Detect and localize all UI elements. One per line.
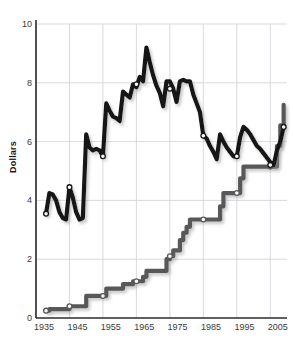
nominal-data-point [67,304,72,309]
real-data-point [201,133,206,138]
nominal-data-point [101,294,106,299]
data-series-layer [46,48,284,311]
real-data-point [234,154,239,159]
minimum-wage-chart: Dollars 10 8 6 4 2 0 1935 1945 1955 1965… [0,0,293,344]
nominal-data-point [134,279,139,284]
real-data-point [44,211,49,216]
axis-lines [36,20,287,318]
real-data-point [167,86,172,91]
nominal-data-point [44,308,49,313]
plot-area [0,0,293,344]
real-data-point [134,82,139,87]
gridlines [36,24,287,318]
nominal-data-point [201,217,206,222]
real-wage-line [46,48,284,220]
real-data-point [268,163,273,168]
real-data-point [67,185,72,190]
real-data-point [281,125,286,130]
data-point-markers [44,82,286,313]
nominal-data-point [167,254,172,259]
real-data-point [101,154,106,159]
nominal-data-point [234,191,239,196]
